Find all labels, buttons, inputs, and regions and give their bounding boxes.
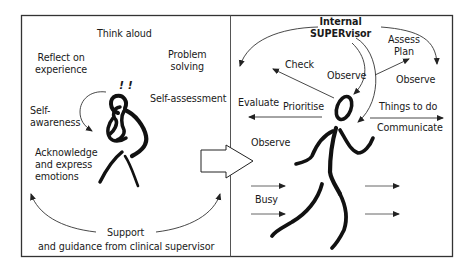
diagram-canvas: Think aloud Reflect on experience Proble… — [0, 0, 471, 275]
label-problem-solving: Problem solving — [168, 49, 207, 73]
label-think-aloud: Think aloud — [97, 28, 152, 40]
label-things-to-do: Things to do — [379, 101, 437, 113]
curved-arrow-icon — [80, 92, 106, 131]
label-support: Support — [107, 227, 144, 239]
label-reflect-on-experience: Reflect on experience — [35, 52, 87, 76]
check-arrow-icon — [273, 69, 334, 98]
support-arrow-right-icon — [156, 194, 220, 232]
label-communicate: Communicate — [377, 122, 443, 134]
label-prioritise: Prioritise — [283, 101, 324, 113]
observe-arrow-icon — [352, 43, 365, 94]
label-observe-left: Observe — [251, 137, 290, 149]
label-busy: Busy — [255, 194, 278, 206]
label-acknowledge-emotions: Acknowledge and express emotions — [35, 147, 98, 183]
block-arrow-right-icon — [201, 145, 253, 178]
label-exclamation: ! ! — [119, 80, 133, 92]
label-self-assessment: Self-assessment — [150, 93, 226, 105]
label-check: Check — [285, 59, 314, 71]
label-guidance: and guidance from clinical supervisor — [38, 241, 214, 253]
label-observe-right: Observe — [396, 74, 435, 86]
label-internal-supervisor: Internal SUPERvisor — [310, 16, 371, 40]
label-assess-plan: Assess Plan — [388, 34, 420, 58]
support-arrow-left-icon — [31, 194, 96, 232]
label-observe-center: Observe — [327, 70, 366, 82]
label-evaluate: Evaluate — [238, 97, 279, 109]
assess-arrow-icon — [375, 59, 409, 75]
thinking-figure-icon — [100, 96, 146, 186]
label-self-awareness: Self- awareness — [30, 105, 80, 129]
